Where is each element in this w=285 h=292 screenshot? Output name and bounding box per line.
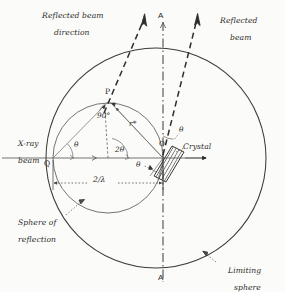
label-angle-theta-o-upper: θ bbox=[179, 126, 184, 134]
label-point-o: O bbox=[159, 141, 165, 149]
angle-tick-o-lower bbox=[149, 166, 153, 170]
reflected-beam-direction-arrowhead bbox=[141, 14, 146, 26]
label-axis-bottom: A bbox=[158, 274, 163, 283]
angle-arc-theta-o-upper bbox=[163, 136, 173, 139]
reflected-beam-direction-ray bbox=[104, 19, 144, 113]
label-reflected-beam-direction: Reflected beam direction bbox=[32, 3, 104, 46]
label-angle-90: 90° bbox=[97, 112, 110, 120]
leader-limiting-arrowhead bbox=[203, 251, 208, 256]
leader-sphere-arrowhead bbox=[79, 200, 85, 204]
figure-root: Reflected beam direction Reflected beam … bbox=[0, 0, 285, 292]
label-limiting-sphere: Limiting sphere bbox=[218, 258, 261, 292]
angle-leader-theta-o-lower bbox=[145, 166, 150, 168]
reflected-beam-arrowhead bbox=[195, 14, 201, 26]
label-diameter: 2/λ bbox=[93, 176, 106, 185]
label-sphere-of-reflection: Sphere of reflection bbox=[8, 210, 56, 253]
label-xray-beam: X-ray beam bbox=[8, 131, 40, 174]
label-angle-two-theta: 2θ bbox=[115, 146, 124, 154]
angle-arc-two-theta-tick bbox=[125, 155, 129, 160]
leader-sphere-of-reflection bbox=[66, 201, 82, 215]
chord-qp bbox=[53, 101, 109, 158]
label-reflected-beam: Reflected beam bbox=[210, 8, 258, 51]
label-point-q: Q bbox=[44, 160, 50, 169]
label-axis-top: A bbox=[158, 12, 163, 21]
label-point-p: P bbox=[105, 88, 110, 97]
angle-leader-theta-o-upper bbox=[175, 134, 180, 140]
label-angle-theta-o-lower: θ bbox=[136, 161, 141, 169]
reflected-beam-ray bbox=[163, 19, 197, 155]
angle-tick-p-right bbox=[112, 103, 115, 106]
angle-arc-theta-q bbox=[68, 144, 74, 158]
label-angle-theta-q: θ bbox=[74, 141, 79, 149]
label-reciprocal-vector: r* bbox=[129, 120, 136, 128]
label-crystal: Crystal bbox=[183, 143, 211, 152]
